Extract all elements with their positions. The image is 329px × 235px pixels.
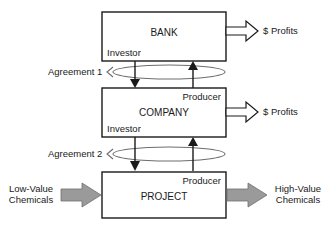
high-value-chemicals-label-line2: Chemicals (276, 194, 321, 205)
low-value-input-arrow-icon (61, 183, 101, 207)
bank-investor-role-label: Investor (107, 47, 141, 58)
agreement-2-leader-icon (107, 149, 113, 159)
agreement-2-ellipse (113, 147, 225, 161)
flow-diagram: BANK Investor $ Profits Agreement 1 Prod… (0, 0, 329, 235)
project-producer-role-label: Producer (182, 175, 221, 186)
company-profits-label: $ Profits (263, 106, 298, 117)
diagram-canvas: BANK Investor $ Profits Agreement 1 Prod… (0, 0, 329, 235)
project-to-company-arrowhead-icon (188, 137, 198, 146)
agreement-1-label: Agreement 1 (48, 66, 102, 77)
high-value-chemicals-label-line1: High-Value (275, 183, 321, 194)
high-value-output-arrow-icon (227, 183, 267, 207)
agreement-1-ellipse (113, 65, 225, 79)
agreement-1-leader-icon (107, 67, 113, 77)
company-to-project-arrowhead-icon (130, 161, 140, 171)
low-value-chemicals-label-line1: Low-Value (9, 183, 53, 194)
company-profits-arrow-icon (226, 102, 258, 122)
project-box-label: PROJECT (141, 191, 188, 202)
bank-to-company-arrowhead-icon (130, 79, 140, 88)
company-producer-role-label: Producer (182, 91, 221, 102)
bank-box-label: BANK (150, 27, 178, 38)
bank-profits-arrow-icon (226, 21, 258, 41)
agreement-2-label: Agreement 2 (48, 148, 102, 159)
company-investor-role-label: Investor (107, 123, 141, 134)
bank-profits-label: $ Profits (263, 25, 298, 36)
company-box-label: COMPANY (139, 107, 189, 118)
low-value-chemicals-label-line2: Chemicals (9, 194, 54, 205)
